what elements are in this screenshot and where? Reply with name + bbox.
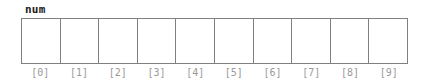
array-cell[interactable] [138,19,177,63]
array-index-label: [1] [60,65,99,80]
array-cell[interactable] [22,19,61,63]
array-index-labels-container: [0] [1] [2] [3] [4] [5] [6] [7] [8] [9] [21,65,408,80]
array-cell[interactable] [61,19,100,63]
array-cell[interactable] [369,19,407,63]
array-index-label: [7] [292,65,331,80]
array-index-label: [8] [331,65,370,80]
array-cell[interactable] [99,19,138,63]
array-cell[interactable] [331,19,370,63]
array-index-label: [2] [98,65,137,80]
array-index-label: [3] [137,65,176,80]
array-cell[interactable] [254,19,293,63]
array-cells-container [21,18,408,64]
array-index-label: [5] [215,65,254,80]
array-index-label: [9] [369,65,408,80]
array-index-label: [0] [21,65,60,80]
array-cell[interactable] [176,19,215,63]
array-index-label: [6] [253,65,292,80]
array-cell[interactable] [215,19,254,63]
array-diagram: num [0] [1] [2] [3] [4] [5] [6] [7] [8] … [0,0,430,84]
array-cell[interactable] [292,19,331,63]
array-variable-label: num [25,3,45,16]
array-index-label: [4] [176,65,215,80]
